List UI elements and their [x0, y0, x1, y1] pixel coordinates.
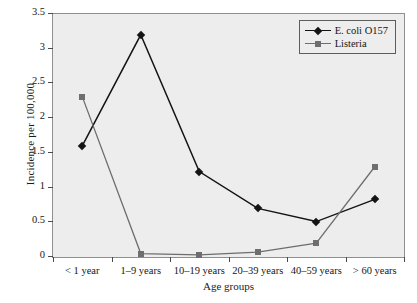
y-tick-label: 3.5	[32, 6, 45, 17]
figure-container: Incidence per 100,000 00.511.522.533.5 <…	[0, 0, 417, 303]
data-point-1-1	[138, 251, 144, 257]
plot-inner: 00.511.522.533.5 < 1 year1–9 years10–19 …	[53, 14, 404, 257]
legend-label: E. coli O157	[335, 24, 388, 37]
legend-marker	[315, 41, 321, 47]
x-tick-label: < 1 year	[65, 265, 100, 276]
data-point-1-4	[313, 240, 319, 246]
data-point-1-0	[79, 94, 85, 100]
x-tick-label: > 60 years	[353, 265, 397, 276]
y-tick-label: 1.5	[32, 145, 45, 156]
x-tick-mark	[112, 257, 113, 262]
cropped-caption	[4, 294, 184, 303]
plot-area: 00.511.522.533.5 < 1 year1–9 years10–19 …	[52, 13, 405, 258]
x-tick-mark	[170, 257, 171, 262]
x-tick-label: 40–59 years	[291, 265, 342, 276]
x-tick-label: 20–39 years	[232, 265, 283, 276]
y-tick-label: 0	[40, 249, 45, 260]
legend-marker-diamond-icon	[305, 25, 331, 36]
x-tick-mark	[346, 257, 347, 262]
y-tick-label: 1	[40, 180, 45, 191]
data-point-1-2	[196, 252, 202, 258]
chart-legend: E. coli O157Listeria	[299, 20, 396, 54]
legend-label: Listeria	[335, 37, 367, 50]
x-tick-mark	[404, 257, 405, 262]
legend-item-1: Listeria	[305, 37, 388, 50]
y-tick-label: 2	[40, 110, 45, 121]
legend-marker	[313, 26, 321, 34]
legend-item-0: E. coli O157	[305, 24, 388, 37]
data-point-1-3	[255, 249, 261, 255]
x-tick-label: 10–19 years	[174, 265, 225, 276]
y-tick-label: 2.5	[32, 75, 45, 86]
y-tick-label: 0.5	[32, 214, 45, 225]
x-tick-mark	[229, 257, 230, 262]
x-tick-mark	[287, 257, 288, 262]
y-tick-label: 3	[40, 41, 45, 52]
x-axis-title: Age groups	[52, 280, 405, 292]
x-tick-label: 1–9 years	[120, 265, 161, 276]
legend-marker-square-icon	[305, 38, 331, 49]
data-point-1-5	[372, 164, 378, 170]
y-axis-title: Incidence per 100,000	[24, 24, 36, 244]
series-line-0	[82, 35, 375, 222]
x-tick-mark	[53, 257, 54, 262]
series-line-1	[82, 97, 375, 255]
